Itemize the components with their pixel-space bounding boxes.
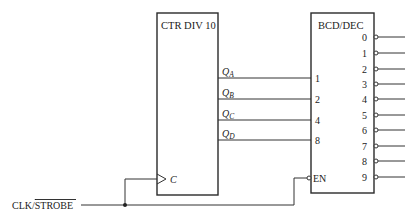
decoder-input-4: 4 [315, 115, 320, 126]
wire-clk-to-counter [125, 179, 157, 205]
decoder-output-4: 4 [362, 94, 367, 105]
active-low-bubble-icon [374, 82, 378, 86]
decoder-output-0: 0 [362, 32, 367, 43]
qa-label: QA [222, 66, 234, 79]
circuit-diagram: CTR DIV 10 C QA QB QC QD BCD/DEC 1 2 4 8… [0, 0, 419, 220]
decoder-output-2: 2 [362, 64, 367, 75]
qb-label: QB [222, 87, 234, 100]
counter-block: CTR DIV 10 C QA QB QC QD [157, 13, 235, 195]
enable-bubble-icon [307, 176, 311, 180]
active-low-bubble-icon [374, 113, 378, 117]
decoder-block: BCD/DEC 1 2 4 8 EN 0 1 2 3 4 5 6 7 8 9 [307, 13, 405, 193]
decoder-input-2: 2 [315, 94, 320, 105]
decoder-output-5: 5 [362, 110, 367, 121]
decoder-output-1: 1 [362, 48, 367, 59]
decoder-output-9: 9 [362, 172, 367, 183]
data-bus-wires [218, 78, 311, 140]
decoder-output-3: 3 [362, 79, 367, 90]
enable-label: EN [313, 173, 326, 184]
active-low-bubble-icon [374, 128, 378, 132]
decoder-input-1: 1 [315, 73, 320, 84]
decoder-input-8: 8 [315, 135, 320, 146]
active-low-bubble-icon [374, 51, 378, 55]
clk-strobe-label: CLK/STROBE [12, 200, 73, 211]
active-low-bubble-icon [374, 144, 378, 148]
qc-label: QC [222, 108, 235, 121]
active-low-bubble-icon [374, 35, 378, 39]
counter-box [157, 13, 218, 195]
counter-title: CTR DIV 10 [161, 20, 216, 31]
decoder-title: BCD/DEC [318, 20, 364, 31]
decoder-output-7: 7 [362, 141, 367, 152]
junction-dot-icon [123, 203, 127, 207]
active-low-bubble-icon [374, 67, 378, 71]
clock-label: C [170, 174, 177, 185]
active-low-bubble-icon [374, 97, 378, 101]
active-low-bubble-icon [374, 175, 378, 179]
decoder-output-8: 8 [362, 156, 367, 167]
decoder-output-6: 6 [362, 125, 367, 136]
qd-label: QD [222, 128, 235, 141]
active-low-bubble-icon [374, 159, 378, 163]
